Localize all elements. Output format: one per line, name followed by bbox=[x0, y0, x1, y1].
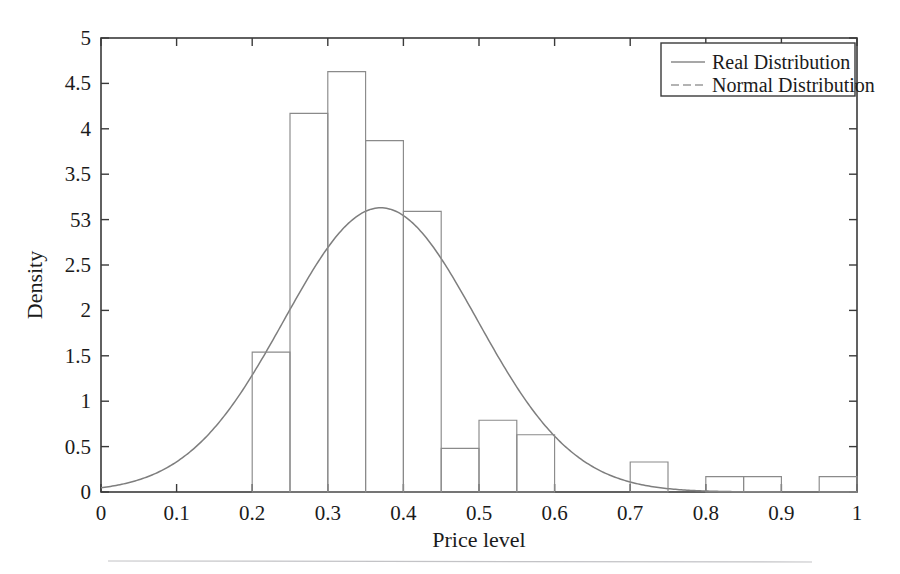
histogram-bar bbox=[290, 113, 328, 492]
y-axis-tick-labels: 00.511.522.5533.544.55 bbox=[65, 26, 92, 504]
y-tick-label-4.5: 4.5 bbox=[65, 71, 91, 95]
histogram-bar bbox=[706, 477, 744, 492]
legend: Real Distribution Normal Distribution bbox=[661, 43, 875, 96]
y-tick-label-2: 2 bbox=[81, 298, 92, 322]
x-axis-tick-labels: 00.10.20.30.40.50.60.70.80.91 bbox=[96, 501, 863, 525]
y-tick-label-5: 5 bbox=[81, 26, 92, 50]
histogram-bar bbox=[366, 141, 404, 492]
x-tick-label-0.7: 0.7 bbox=[617, 501, 643, 525]
y-tick-label-4: 4 bbox=[81, 117, 92, 141]
y-tick-label-1: 1 bbox=[81, 389, 92, 413]
x-tick-label-0.4: 0.4 bbox=[390, 501, 417, 525]
y-tick-label-3.5: 3.5 bbox=[65, 162, 91, 186]
y-tick-label-0: 0 bbox=[81, 480, 92, 504]
x-tick-label-0.5: 0.5 bbox=[466, 501, 492, 525]
histogram-bar bbox=[479, 420, 517, 492]
y-tick-label-1.5: 1.5 bbox=[65, 344, 91, 368]
x-axis-title: Price level bbox=[432, 527, 525, 552]
histogram-bar bbox=[403, 211, 441, 492]
x-tick-label-0.1: 0.1 bbox=[163, 501, 189, 525]
figure-page: 00.10.20.30.40.50.60.70.80.91 00.511.522… bbox=[0, 0, 900, 574]
x-tick-label-0.2: 0.2 bbox=[239, 501, 265, 525]
x-tick-label-0.9: 0.9 bbox=[768, 501, 794, 525]
y-tick-label-0.5: 0.5 bbox=[65, 435, 91, 459]
legend-label-normal-distribution: Normal Distribution bbox=[712, 74, 875, 96]
histogram-bar bbox=[819, 477, 857, 492]
x-tick-label-1: 1 bbox=[852, 501, 863, 525]
histogram-chart: 00.10.20.30.40.50.60.70.80.91 00.511.522… bbox=[0, 0, 900, 574]
x-tick-label-0.3: 0.3 bbox=[315, 501, 341, 525]
histogram-bar bbox=[328, 72, 366, 492]
real-distribution-histogram bbox=[252, 72, 857, 492]
x-tick-label-0.8: 0.8 bbox=[693, 501, 719, 525]
y-tick-label-2.5: 2.5 bbox=[65, 253, 91, 277]
legend-label-real-distribution: Real Distribution bbox=[712, 51, 850, 73]
x-tick-label-0.6: 0.6 bbox=[541, 501, 567, 525]
x-tick-label-0: 0 bbox=[96, 501, 107, 525]
scan-artifact-line bbox=[108, 561, 812, 562]
histogram-bar bbox=[744, 477, 782, 492]
y-tick-label-53: 53 bbox=[70, 208, 91, 232]
y-axis-title: Density bbox=[22, 251, 47, 319]
histogram-bar bbox=[517, 435, 555, 492]
histogram-bar bbox=[441, 448, 479, 492]
histogram-bar bbox=[252, 352, 290, 492]
